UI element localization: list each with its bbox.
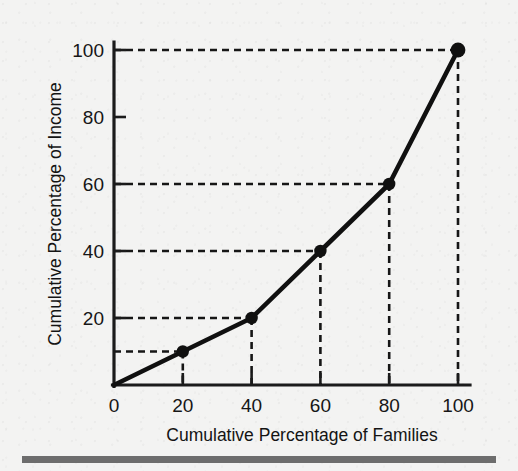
x-tick-label-20: 20 <box>172 395 193 416</box>
data-point-markers <box>177 43 466 358</box>
guide-lines-group <box>114 50 458 385</box>
footer-rule <box>22 456 496 463</box>
x-tick-label-80: 80 <box>379 395 400 416</box>
y-tick-label-80: 80 <box>83 107 104 128</box>
lorenz-curve-path <box>114 50 458 385</box>
lorenz-curve-figure: 100 80 60 40 20 0 20 40 60 80 100 Cumula… <box>0 0 518 471</box>
data-point-20-10 <box>177 345 189 357</box>
x-tick-label-40: 40 <box>241 395 262 416</box>
axis-lines-group <box>113 42 471 387</box>
data-point-100-100 <box>451 43 466 58</box>
data-point-40-20 <box>245 312 257 324</box>
x-tick-label-0: 0 <box>109 395 120 416</box>
x-tick-label-60: 60 <box>310 395 331 416</box>
y-tick-label-20: 20 <box>83 308 104 329</box>
y-tick-label-40: 40 <box>83 241 104 262</box>
x-tick-marks <box>183 373 458 385</box>
x-axis-title: Cumulative Percentage of Families <box>166 425 438 445</box>
y-axis-title: Cumulative Percentage of Income <box>45 82 65 346</box>
data-point-60-40 <box>314 245 326 257</box>
y-tick-marks <box>114 50 126 318</box>
y-tick-label-60: 60 <box>83 174 104 195</box>
y-tick-label-100: 100 <box>72 40 104 61</box>
x-tick-labels: 0 20 40 60 80 100 <box>109 395 474 416</box>
data-point-80-60 <box>383 178 395 190</box>
chart-canvas: 100 80 60 40 20 0 20 40 60 80 100 Cumula… <box>0 0 518 471</box>
y-tick-labels: 100 80 60 40 20 <box>72 40 104 329</box>
x-tick-label-100: 100 <box>442 395 474 416</box>
